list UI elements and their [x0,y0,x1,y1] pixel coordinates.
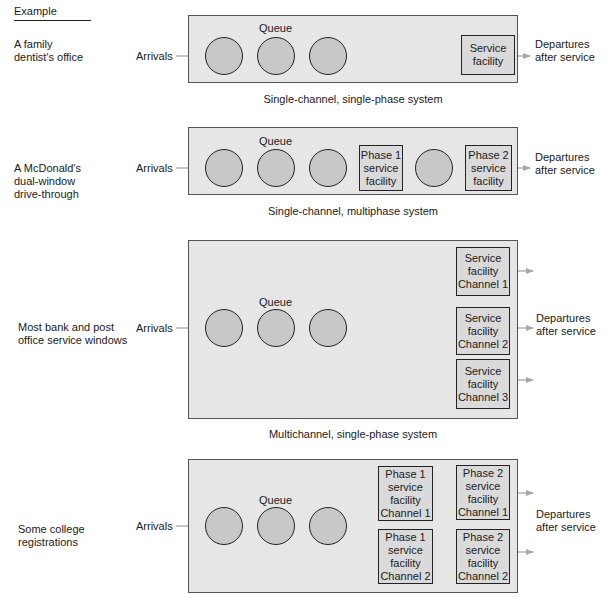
facility-line: Service [470,42,507,55]
example-label-bank: Most bank and post office service window… [18,321,127,347]
facility-line: Channel 1 [458,506,508,519]
panel-caption: Single-channel, single-phase system [188,93,518,105]
facility-line: service [388,481,423,494]
facility-line: Channel 2 [458,570,508,583]
departures-label: Departures after service [535,151,595,177]
facility-line: facility [468,265,499,278]
arrivals-label: Arrivals [136,520,173,532]
departures-line: Departures [535,38,595,51]
queue-customer-circle [309,37,347,75]
queue-customer-circle [205,507,243,545]
facility-line: Channel 2 [380,570,430,583]
facility-line: service [466,544,501,557]
departures-line: after service [536,325,596,338]
facility-line: facility [468,557,499,570]
phase-2-channel-1-box: Phase 2 service facility Channel 1 [456,465,510,520]
departures-label: Departures after service [535,38,595,64]
queue-customer-circle [309,309,347,347]
queue-customer-circle [257,507,295,545]
phase-2-facility-box: Phase 2 service facility [465,145,512,191]
queue-customer-circle [257,149,295,187]
facility-line: facility [366,175,397,188]
queue-label: Queue [259,135,292,147]
queue-customer-circle [205,37,243,75]
example-line: dual-window [14,175,81,188]
facility-line: Service [465,365,502,378]
panel-caption: Multichannel, single-phase system [188,428,518,440]
facility-line: Phase 1 [361,149,401,162]
phase-1-channel-1-box: Phase 1 service facility Channel 1 [378,466,433,521]
example-label-mcdonalds: A McDonald's dual-window drive-through [14,162,81,201]
example-line: dentist's office [14,51,83,64]
service-facility-box: Service facility [461,35,515,75]
queue-customer-circle [309,507,347,545]
arrivals-label: Arrivals [136,50,173,62]
departures-line: Departures [536,312,596,325]
example-line: A McDonald's [14,162,81,175]
arrivals-label: Arrivals [136,322,173,334]
service-facility-channel-2-box: Service facility Channel 2 [456,307,510,355]
example-line: A family [14,38,83,51]
facility-line: facility [390,494,421,507]
departures-line: Departures [536,508,596,521]
facility-line: service [388,544,423,557]
facility-line: facility [468,493,499,506]
facility-line: Phase 1 [385,468,425,481]
facility-line: Phase 2 [468,149,508,162]
phase-1-channel-2-box: Phase 1 service facility Channel 2 [378,529,433,584]
facility-line: facility [468,378,499,391]
facility-line: Phase 2 [463,531,503,544]
example-line: Some college [18,523,85,536]
intermediate-queue-circle [415,149,453,187]
facility-line: Service [465,252,502,265]
facility-line: facility [473,175,504,188]
queue-customer-circle [257,37,295,75]
facility-line: service [364,162,399,175]
queue-label: Queue [259,22,292,34]
example-column-header: Example [14,5,57,17]
example-header-underline [14,20,91,21]
facility-line: Service [465,312,502,325]
service-facility-channel-3-box: Service facility Channel 3 [456,359,510,409]
departures-label: Departures after service [536,508,596,534]
arrivals-label: Arrivals [136,162,173,174]
facility-line: service [471,162,506,175]
departures-line: after service [535,164,595,177]
example-line: registrations [18,536,85,549]
departures-label: Departures after service [536,312,596,338]
panel-caption: Single-channel, multiphase system [188,205,518,217]
phase-1-facility-box: Phase 1 service facility [359,145,403,191]
queue-customer-circle [205,309,243,347]
facility-line: Channel 3 [458,391,508,404]
facility-line: Channel 1 [458,278,508,291]
example-label-dentist: A family dentist's office [14,38,83,64]
facility-line: Phase 2 [463,467,503,480]
queue-customer-circle [257,309,295,347]
departures-line: after service [535,51,595,64]
facility-line: facility [473,55,504,68]
facility-line: Channel 2 [458,338,508,351]
queue-customer-circle [309,149,347,187]
facility-line: Phase 1 [385,531,425,544]
departures-line: after service [536,521,596,534]
facility-line: facility [390,557,421,570]
service-facility-channel-1-box: Service facility Channel 1 [456,247,510,296]
phase-2-channel-2-box: Phase 2 service facility Channel 2 [456,529,510,584]
example-label-college: Some college registrations [18,523,85,549]
departures-line: Departures [535,151,595,164]
example-line: drive-through [14,188,81,201]
queue-label: Queue [259,494,292,506]
queue-label: Queue [259,296,292,308]
facility-line: service [466,480,501,493]
queue-customer-circle [205,149,243,187]
example-line: Most bank and post [18,321,127,334]
facility-line: Channel 1 [380,507,430,520]
facility-line: facility [468,325,499,338]
example-line: office service windows [18,334,127,347]
